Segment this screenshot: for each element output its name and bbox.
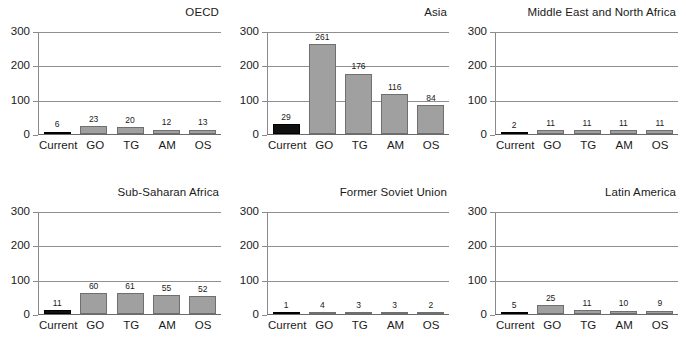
bar (80, 126, 107, 134)
y-axis-tick-label: 100 (240, 95, 259, 107)
bar-value-label: 116 (388, 83, 402, 92)
y-axis-tick-mark (490, 281, 495, 282)
panel-title: Latin America (605, 186, 676, 198)
y-axis-tick-label: 200 (240, 241, 259, 253)
bar-slot: 2 (496, 32, 532, 134)
bar-slot: 20 (112, 32, 148, 134)
panel-title: Asia (424, 6, 447, 18)
x-axis-category-labels: CurrentGOTGAMOS (39, 139, 221, 151)
y-axis-tick-mark (262, 135, 267, 136)
x-axis-category-label: Current (39, 319, 77, 331)
bar (501, 312, 528, 314)
bar-slot: 25 (532, 212, 568, 314)
bar-value-label: 12 (162, 118, 171, 127)
bar-slot: 6 (39, 32, 75, 134)
plot-area: 01002003001160615552 (38, 212, 221, 315)
bar (80, 293, 107, 314)
bar-value-label: 2 (429, 301, 434, 310)
bar-slot: 9 (642, 212, 678, 314)
y-axis-tick-mark (262, 246, 267, 247)
bar-slot: 52 (185, 212, 221, 314)
y-axis-tick-mark (490, 66, 495, 67)
chart-panel: OECD0100200300623201213CurrentGOTGAMOS (0, 0, 229, 180)
x-axis-category-label: GO (77, 139, 113, 151)
y-axis-tick-label: 300 (240, 26, 259, 38)
x-axis-line (267, 314, 449, 315)
bar-slot: 23 (75, 32, 111, 134)
bar-value-label: 11 (546, 119, 555, 128)
y-axis-tick-mark (490, 315, 495, 316)
bar (153, 130, 180, 134)
bar (574, 310, 601, 314)
x-axis-category-label: OS (185, 139, 221, 151)
bar-slot: 1 (268, 212, 304, 314)
bar (417, 312, 444, 314)
y-axis-tick-label: 300 (468, 206, 487, 218)
chart-panel: Middle East and North Africa010020030021… (457, 0, 686, 180)
bar-value-label: 84 (426, 94, 435, 103)
bar-value-label: 61 (125, 282, 134, 291)
bar-group: 14332 (268, 212, 449, 314)
x-axis-line (267, 134, 449, 135)
x-axis-category-label: AM (378, 139, 414, 151)
bar (345, 312, 372, 314)
y-axis-tick-mark (33, 246, 38, 247)
x-axis-category-label: OS (642, 139, 678, 151)
bar-slot: 2 (413, 212, 449, 314)
bar-slot: 11 (532, 32, 568, 134)
x-axis-category-label: TG (113, 139, 149, 151)
bar-value-label: 4 (320, 301, 325, 310)
y-axis-tick-mark (33, 315, 38, 316)
bar-value-label: 55 (162, 284, 171, 293)
x-axis-category-label: TG (342, 319, 378, 331)
bar-value-label: 60 (89, 282, 98, 291)
bar (117, 293, 144, 314)
bar-value-label: 3 (356, 301, 361, 310)
x-axis-category-label: OS (642, 319, 678, 331)
x-axis-category-label: TG (570, 319, 606, 331)
y-axis-tick-label: 200 (240, 61, 259, 73)
bar (189, 130, 216, 134)
bar (44, 132, 71, 134)
bar-slot: 176 (340, 32, 376, 134)
bar-value-label: 11 (53, 299, 62, 308)
x-axis-category-label: AM (606, 319, 642, 331)
bar-slot: 12 (148, 32, 184, 134)
plot-area: 0100200300623201213 (38, 32, 221, 135)
bar-value-label: 10 (619, 299, 628, 308)
bar-slot: 3 (377, 212, 413, 314)
chart-panel: Former Soviet Union010020030014332Curren… (229, 180, 457, 355)
bar (153, 295, 180, 314)
bar-slot: 261 (304, 32, 340, 134)
x-axis-category-labels: CurrentGOTGAMOS (496, 139, 678, 151)
bar-value-label: 11 (583, 119, 592, 128)
bar (610, 311, 637, 314)
y-axis-tick-label: 100 (468, 95, 487, 107)
bar (44, 310, 71, 314)
bar (381, 94, 408, 134)
y-axis-tick-mark (262, 212, 267, 213)
x-axis-category-label: TG (570, 139, 606, 151)
x-axis-category-labels: CurrentGOTGAMOS (268, 319, 449, 331)
bar-slot: 13 (185, 32, 221, 134)
bar-slot: 4 (304, 212, 340, 314)
y-axis-tick-label: 200 (468, 241, 487, 253)
y-axis-tick-label: 300 (11, 26, 30, 38)
plot-area: 010020030052511109 (495, 212, 678, 315)
y-axis-tick-mark (33, 281, 38, 282)
bar-slot: 10 (605, 212, 641, 314)
bar-group: 52511109 (496, 212, 678, 314)
bar-value-label: 11 (583, 299, 592, 308)
y-axis-tick-label: 0 (253, 309, 259, 321)
bar (574, 130, 601, 134)
bar (309, 44, 336, 134)
bar-value-label: 11 (655, 119, 664, 128)
x-axis-category-label: Current (496, 319, 534, 331)
bar-slot: 84 (413, 32, 449, 134)
bar-group: 2926117611684 (268, 32, 449, 134)
bar-group: 1160615552 (39, 212, 221, 314)
x-axis-category-label: Current (268, 319, 306, 331)
bar (417, 105, 444, 134)
y-axis-tick-label: 100 (11, 275, 30, 287)
bar-group: 623201213 (39, 32, 221, 134)
